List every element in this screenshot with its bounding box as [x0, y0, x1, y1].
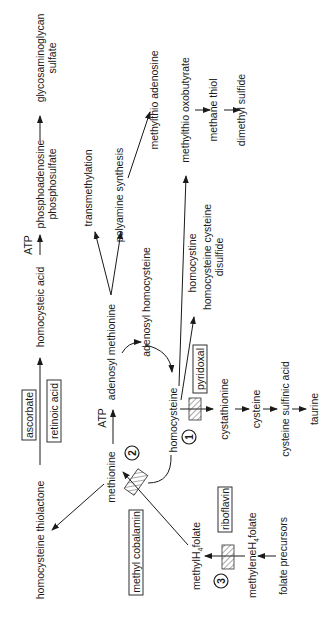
label-methane-thiol: methane thiol	[207, 78, 219, 141]
enzyme-block-2	[124, 469, 148, 496]
homocysteine-to-mtob-arrow	[179, 176, 186, 386]
enzyme-marker-3: 3	[214, 574, 228, 588]
sam-to-transmethylation-arrow	[95, 232, 111, 295]
svg-text:2: 2	[127, 450, 138, 456]
label-phosphoadenosine: phosphoadenosine	[34, 139, 46, 228]
homocysteine-to-homocystine-arrow	[181, 317, 194, 400]
label-taurine: taurine	[308, 393, 320, 425]
label-methylthio-adenosine: methylthio adenosine	[148, 50, 160, 149]
polyamine-to-mta-arrow	[128, 112, 150, 178]
methionine-to-thiolactone-arrow	[52, 484, 104, 530]
label-homocysteic-acid: homocysteic acid	[34, 267, 46, 348]
svg-text:methyleneH4folate: methyleneH4folate	[246, 512, 260, 598]
label-methylthio-oxobutyrate: methylthio oxobutyrate	[179, 57, 191, 163]
label-adenosyl-methionine: adenosyl methionine	[105, 304, 117, 400]
svg-text:1: 1	[184, 434, 195, 440]
label-adenosyl-homocysteine: adenosyl homocysteine	[140, 247, 152, 357]
label-glycosaminoglycan-sulfate: sulfate	[46, 42, 58, 73]
label-homocysteine: homocysteine	[167, 387, 179, 452]
enzyme-marker-1: 1	[182, 430, 196, 444]
label-cysteine: cysteine	[250, 390, 262, 429]
label-atp-mid: ATP	[96, 408, 108, 428]
label-dimethyl-sulfide: dimethyl sulfide	[235, 74, 247, 147]
label-cysteine-sulfinic-acid: cysteine sulfinic acid	[279, 361, 291, 457]
label-methyl-h4-folate: methylH4folate	[190, 522, 204, 590]
label-methylene-h4-folate: methyleneH4folate	[246, 512, 260, 598]
enzyme-block-3	[222, 545, 234, 569]
label-phosphosulfate: phosphosulfate	[46, 148, 58, 219]
enzyme-marker-2: 2	[125, 446, 139, 460]
label-methionine: methionine	[105, 451, 117, 503]
enzyme-block-1	[189, 398, 201, 420]
methionine-metabolism-diagram: 1 2 3 glycosaminoglycan sulfate phosphoa…	[0, 0, 327, 644]
svg-text:3: 3	[216, 578, 227, 584]
label-folate-precursors: folate precursors	[277, 517, 289, 595]
label-homocystine: homocystine	[186, 233, 198, 292]
label-atp-top: ATP	[22, 235, 34, 255]
label-disulfide: disulfide	[213, 238, 225, 277]
label-ascorbate: ascorbate	[23, 392, 35, 438]
homocysteine-to-methionine-curve	[148, 455, 171, 483]
label-pyridoxal: pyridoxal	[194, 348, 206, 390]
sam-to-sah-arrow	[122, 342, 141, 353]
label-homocysteine-thiolactone: homocysteine thiolactone	[34, 481, 46, 600]
label-methyl-cobalamin: methyl cobalamin	[130, 511, 142, 593]
label-homocysteine-cysteine: homocysteine cysteine	[201, 204, 213, 310]
label-retinoic-acid: retinoic acid	[48, 383, 60, 439]
label-glycosaminoglycan: glycosaminoglycan	[34, 13, 46, 102]
label-cystathionine: cystathionine	[218, 378, 230, 439]
label-polyamine-synthesis: polyamine synthesis	[113, 148, 125, 243]
svg-text:methylH4folate: methylH4folate	[190, 522, 204, 590]
label-riboflavin: riboflavin	[219, 488, 231, 530]
label-transmethylation: transmethylation	[82, 149, 94, 226]
